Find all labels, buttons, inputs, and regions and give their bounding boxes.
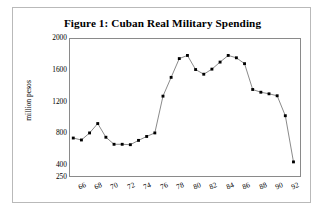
y-axis-tick-labels: 200016001200800400250 bbox=[27, 8, 67, 204]
x-axis-tick: 82 bbox=[208, 180, 218, 191]
data-point-marker bbox=[219, 61, 222, 64]
data-point-marker bbox=[194, 68, 197, 71]
data-point-marker bbox=[162, 95, 165, 98]
x-axis-tick: 68 bbox=[93, 180, 103, 191]
data-line bbox=[73, 55, 293, 161]
x-axis-tick: 90 bbox=[274, 180, 284, 191]
data-point-marker bbox=[129, 143, 132, 146]
x-axis-tick-labels: 6668707274767880828486889092 bbox=[13, 179, 312, 201]
data-point-marker bbox=[80, 139, 83, 142]
data-point-marker bbox=[202, 73, 205, 76]
line-chart-svg bbox=[70, 39, 300, 176]
x-axis-tick: 66 bbox=[77, 180, 87, 191]
data-point-marker bbox=[235, 56, 238, 59]
data-point-marker bbox=[170, 76, 173, 79]
x-axis-tick: 76 bbox=[159, 180, 169, 191]
x-axis-tick: 84 bbox=[225, 180, 235, 191]
data-point-marker bbox=[210, 68, 213, 71]
data-point-marker bbox=[186, 54, 189, 57]
y-axis-tick: 1600 bbox=[33, 66, 67, 74]
data-point-marker bbox=[137, 139, 140, 142]
x-axis-tick: 70 bbox=[109, 180, 119, 191]
plot-area bbox=[69, 38, 301, 177]
data-point-marker bbox=[284, 114, 287, 117]
y-axis-tick: 2000 bbox=[33, 34, 67, 42]
data-point-marker bbox=[259, 91, 262, 94]
data-point-marker bbox=[121, 143, 124, 146]
data-point-marker bbox=[113, 143, 116, 146]
data-point-marker bbox=[276, 94, 279, 97]
data-point-marker bbox=[153, 132, 156, 135]
data-point-marker bbox=[227, 54, 230, 57]
data-point-marker bbox=[104, 136, 107, 139]
x-axis-tick: 74 bbox=[142, 180, 152, 191]
data-point-marker bbox=[268, 92, 271, 95]
data-point-marker bbox=[178, 57, 181, 60]
data-point-marker bbox=[251, 88, 254, 91]
data-point-marker bbox=[72, 137, 75, 140]
y-axis-tick: 400 bbox=[33, 161, 67, 169]
data-point-marker bbox=[96, 122, 99, 125]
y-axis-tick: 1200 bbox=[33, 98, 67, 106]
x-axis-tick: 88 bbox=[258, 180, 268, 191]
data-point-marker bbox=[145, 135, 148, 138]
x-axis-tick: 80 bbox=[192, 180, 202, 191]
y-axis-tick: 800 bbox=[33, 129, 67, 137]
y-axis-title: million pesos bbox=[24, 68, 33, 134]
data-point-marker bbox=[243, 62, 246, 65]
data-point-marker bbox=[88, 132, 91, 135]
x-axis-tick: 78 bbox=[175, 180, 185, 191]
x-axis-tick: 86 bbox=[241, 180, 251, 191]
x-axis-tick: 92 bbox=[290, 180, 300, 191]
x-axis-tick: 72 bbox=[126, 180, 136, 191]
figure-card: Figure 1: Cuban Real Military Spending 2… bbox=[12, 7, 311, 203]
data-point-marker bbox=[292, 160, 295, 163]
